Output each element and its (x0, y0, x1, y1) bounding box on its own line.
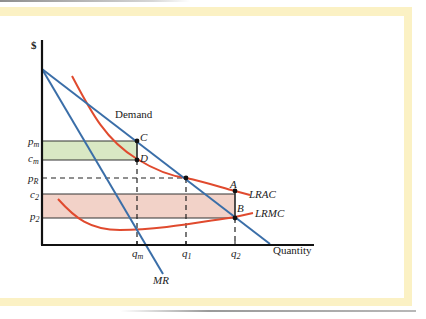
lrac-label: LRAC (248, 188, 277, 200)
mc-pricing-loss-region (42, 194, 235, 218)
point-b-label: B (237, 202, 244, 214)
point-d (135, 158, 140, 163)
point-regulated (184, 176, 189, 181)
y-axis-label: $ (31, 39, 37, 51)
lrac-curve (72, 76, 250, 195)
x-tick-q2: q2 (231, 247, 241, 261)
x-tick-q1: q1 (182, 247, 192, 261)
x-axis-label: Quantity (273, 244, 312, 256)
point-c-label: C (140, 131, 148, 143)
y-tick-cm: cm (28, 152, 39, 166)
point-d-label: D (139, 152, 148, 164)
mr-curve (42, 69, 163, 274)
x-tick-qm: qm (132, 247, 144, 261)
demand-label: Demand (115, 108, 153, 120)
point-a-label: A (229, 178, 237, 190)
mr-label: MR (152, 274, 169, 286)
lrmc-label: LRMC (254, 207, 285, 219)
y-tick-p2: p2 (29, 210, 40, 224)
point-c (135, 139, 140, 144)
natural-monopoly-diagram: $ Quantity Demand MR LRAC LRMC C D A B p… (0, 0, 426, 319)
y-tick-c2: c2 (30, 188, 39, 202)
y-tick-pm: pm (27, 135, 40, 149)
point-b (233, 216, 238, 221)
y-tick-pr: pR (27, 172, 39, 186)
